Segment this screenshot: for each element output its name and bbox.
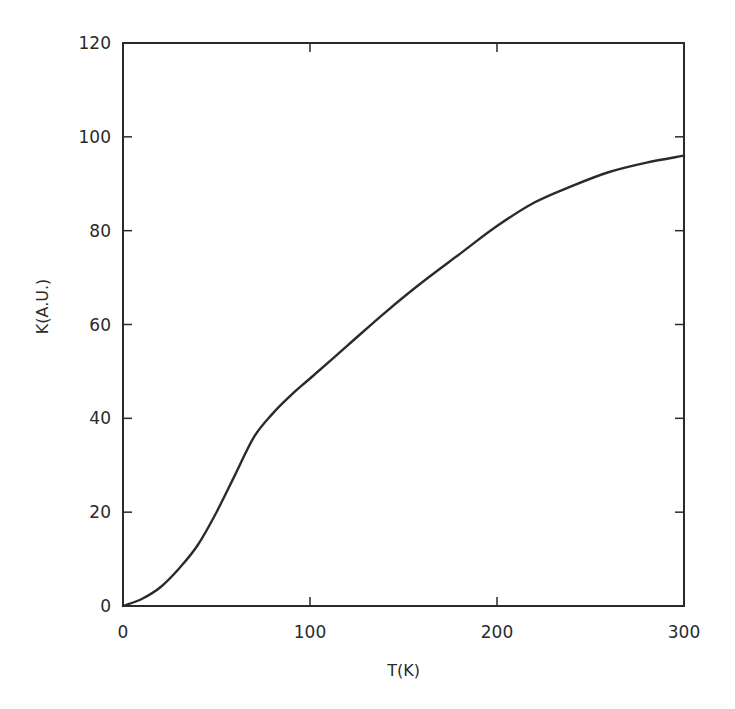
y-tick-label: 0	[100, 596, 111, 616]
y-axis: 020406080100120	[79, 33, 684, 616]
plot-frame	[123, 43, 684, 606]
y-tick-label: 80	[89, 221, 111, 241]
y-tick-label: 120	[79, 33, 111, 53]
y-tick-label: 60	[89, 315, 111, 335]
data-line	[123, 156, 684, 606]
y-tick-label: 20	[89, 502, 111, 522]
x-tick-label: 0	[118, 622, 129, 642]
y-axis-title: K(A.U.)	[33, 279, 52, 335]
y-tick-label: 100	[79, 127, 111, 147]
x-tick-label: 100	[294, 622, 326, 642]
x-tick-label: 300	[668, 622, 700, 642]
x-axis: 0100200300	[118, 43, 701, 642]
y-tick-label: 40	[89, 408, 111, 428]
x-tick-label: 200	[481, 622, 513, 642]
x-axis-title: T(K)	[386, 661, 420, 680]
line-chart: 020406080100120 0100200300 T(K) K(A.U.)	[0, 0, 735, 709]
